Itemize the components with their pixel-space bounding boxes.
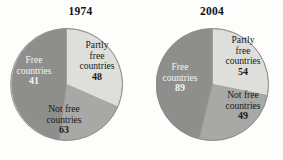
slice-value: 49 [209,111,277,122]
pie-chart-1974: 1974 Partly free countries 48 Not free c… [0,0,141,160]
slice-label-line1: Not free [209,90,277,101]
slice-label-partly-free-2004: Partly free countries 54 [209,35,277,77]
slice-label-not-free-1974: Not free countries 63 [30,104,98,136]
slice-value: 89 [149,83,211,94]
slice-value: 63 [30,125,98,136]
slice-value: 48 [64,72,130,83]
pie-chart-2004: 2004 Partly free countries 54 Not free c… [141,0,283,160]
slice-label-line1: Free [4,55,64,66]
slice-label-not-free-2004: Not free countries 49 [209,90,277,122]
slice-value: 41 [4,76,64,87]
slice-value: 54 [209,67,277,78]
slice-label-line1: Not free [30,104,98,115]
pie-chart-figure: 1974 Partly free countries 48 Not free c… [0,0,283,160]
slice-label-line1: Partly [64,40,130,51]
slice-label-line1: Free [149,62,211,73]
slice-label-partly-free-1974: Partly free countries 48 [64,40,130,82]
chart-title-2004: 2004 [141,5,283,17]
slice-label-free-1974: Free countries 41 [4,55,64,87]
chart-title-1974: 1974 [0,5,151,17]
slice-label-free-2004: Free countries 89 [149,62,211,94]
slice-label-line1: Partly [209,35,277,46]
